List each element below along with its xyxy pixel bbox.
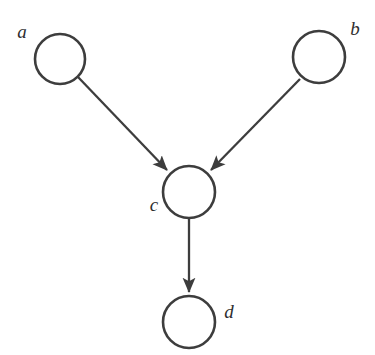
node-a-circle[interactable] <box>35 34 85 84</box>
node-c-label: c <box>150 194 159 215</box>
node-c-circle[interactable] <box>163 166 215 218</box>
edge-b-to-c[interactable] <box>211 79 300 170</box>
graph-figure: a b c d <box>0 0 375 355</box>
edge-a-to-c[interactable] <box>78 77 167 170</box>
node-group <box>35 31 345 348</box>
node-b-circle[interactable] <box>293 31 345 83</box>
graph-canvas: a b c d <box>0 0 375 355</box>
node-b-label: b <box>350 18 360 39</box>
node-d-label: d <box>224 301 234 322</box>
node-a-label: a <box>17 21 27 42</box>
node-d-circle[interactable] <box>163 296 215 348</box>
